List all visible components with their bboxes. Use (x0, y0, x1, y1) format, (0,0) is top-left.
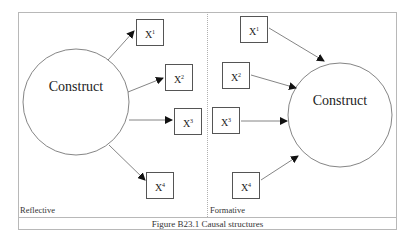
figure-caption: Figure B23.1 Causal structures (18, 217, 397, 230)
reflective-construct-label: Construct (26, 79, 126, 95)
formative-indicator-x3: X3 (212, 107, 240, 134)
reflective-panel-label: Reflective (20, 205, 55, 215)
reflective-indicator-x4: X4 (146, 172, 174, 199)
formative-arrow-4 (261, 156, 298, 180)
reflective-arrow-2 (128, 78, 163, 92)
formative-arrow-2 (251, 75, 296, 88)
formative-arrow-1 (269, 28, 324, 61)
reflective-arrow-1 (108, 31, 134, 60)
formative-construct-label: Construct (290, 93, 390, 109)
formative-construct-circle (288, 63, 392, 167)
reflective-indicator-x1: X1 (136, 19, 164, 46)
formative-indicator-x1: X1 (240, 16, 268, 43)
reflective-construct-circle (23, 49, 129, 155)
reflective-indicator-x2: X2 (165, 64, 193, 91)
diagram-canvas (0, 0, 416, 240)
reflective-indicator-x3: X3 (174, 108, 202, 135)
formative-panel-label: Formative (210, 205, 245, 215)
reflective-arrow-4 (109, 145, 145, 180)
formative-indicator-x2: X2 (222, 62, 250, 89)
formative-indicator-x4: X4 (232, 172, 260, 199)
